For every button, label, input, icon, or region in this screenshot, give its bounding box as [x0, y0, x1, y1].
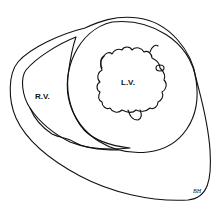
- label-left-ventricle: L.V.: [121, 78, 135, 87]
- heart-drawing: [0, 0, 218, 209]
- label-right-ventricle: R.V.: [35, 92, 50, 101]
- papillary-muscle-top: [150, 45, 158, 52]
- artist-signature: BH: [193, 188, 201, 194]
- trabecula-left: [101, 56, 104, 68]
